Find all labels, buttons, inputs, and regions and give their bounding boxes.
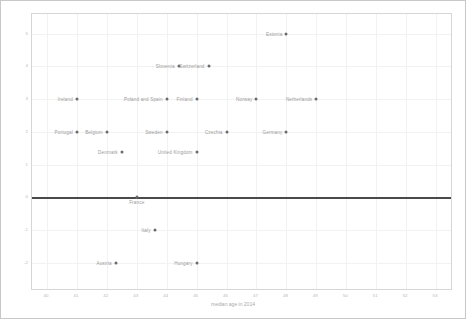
scatter-point[interactable]: [195, 261, 198, 264]
y-gridline: [32, 230, 451, 231]
x-gridline: [376, 14, 377, 289]
x-tick-label: 48: [283, 293, 288, 298]
scatter-point[interactable]: [153, 229, 156, 232]
y-tick-label: 2: [19, 128, 28, 133]
x-tick-label: 40: [44, 293, 49, 298]
scatter-point[interactable]: [195, 150, 198, 153]
x-gridline: [316, 14, 317, 289]
x-gridline: [346, 14, 347, 289]
scatter-point[interactable]: [225, 130, 228, 133]
x-gridline: [406, 14, 407, 289]
point-label: Germany: [262, 129, 282, 134]
y-gridline: [32, 34, 451, 35]
x-gridline: [256, 14, 257, 289]
x-gridline: [77, 14, 78, 289]
x-tick-label: 45: [193, 293, 198, 298]
point-label: Czechia: [205, 129, 223, 134]
y-tick-label: -2: [19, 259, 28, 264]
point-label: Portugal: [55, 129, 73, 134]
scatter-point[interactable]: [165, 98, 168, 101]
y-tick-label: 0: [19, 194, 28, 199]
point-label: Denmark: [98, 149, 118, 154]
scatter-point[interactable]: [105, 130, 108, 133]
y-tick-label: 4: [19, 63, 28, 68]
x-gridline: [286, 14, 287, 289]
y-gridline: [32, 263, 451, 264]
x-tick-label: 47: [253, 293, 258, 298]
y-gridline: [32, 66, 451, 67]
y-gridline: [32, 165, 451, 166]
point-label: United Kingdom: [158, 149, 193, 154]
y-axis-title-wrap: median age change in years compared to 2…: [13, 1, 25, 319]
x-tick-label: 50: [343, 293, 348, 298]
scatter-point[interactable]: [120, 150, 123, 153]
zero-reference-line: [32, 197, 451, 199]
point-label: Slovenia: [156, 64, 175, 69]
x-tick-label: 46: [223, 293, 228, 298]
x-tick-label: 53: [433, 293, 438, 298]
y-tick-label: 1: [19, 161, 28, 166]
x-gridline: [227, 14, 228, 289]
point-label: Sweden: [145, 129, 163, 134]
point-label: Finland: [176, 97, 192, 102]
x-tick-label: 51: [373, 293, 378, 298]
point-label: Netherlands: [286, 97, 312, 102]
x-axis-title: median age in 2014: [1, 301, 465, 307]
y-tick-label: 3: [19, 96, 28, 101]
scatter-point[interactable]: [207, 65, 210, 68]
x-tick-label: 44: [163, 293, 168, 298]
x-tick-label: 42: [103, 293, 108, 298]
point-label: Norway: [236, 97, 252, 102]
scatter-point[interactable]: [285, 130, 288, 133]
x-tick-label: 52: [403, 293, 408, 298]
plot-area: EstoniaSloveniaSwitzerlandIrelandPoland …: [31, 13, 452, 290]
scatter-point[interactable]: [285, 32, 288, 35]
scatter-point[interactable]: [195, 98, 198, 101]
scatter-point[interactable]: [114, 261, 117, 264]
chart-frame: median age change in years compared to 2…: [0, 0, 466, 319]
point-label: Estonia: [266, 31, 282, 36]
point-label: Austria: [96, 260, 111, 265]
scatter-point[interactable]: [75, 98, 78, 101]
scatter-point[interactable]: [315, 98, 318, 101]
x-tick-label: 43: [133, 293, 138, 298]
x-tick-label: 49: [313, 293, 318, 298]
x-gridline: [436, 14, 437, 289]
point-label: Hungary: [174, 260, 192, 265]
point-label: France: [129, 200, 144, 205]
scatter-point[interactable]: [255, 98, 258, 101]
x-tick-label: 41: [73, 293, 78, 298]
point-label: Switzerland: [179, 64, 204, 69]
x-gridline: [137, 14, 138, 289]
point-label: Poland and Spain: [124, 97, 163, 102]
x-gridline: [47, 14, 48, 289]
y-tick-label: -1: [19, 227, 28, 232]
scatter-point[interactable]: [135, 196, 138, 199]
scatter-point[interactable]: [75, 130, 78, 133]
scatter-point[interactable]: [165, 130, 168, 133]
point-label: Ireland: [58, 97, 73, 102]
point-label: Italy: [142, 228, 151, 233]
y-tick-label: 5: [19, 30, 28, 35]
point-label: Belgium: [85, 129, 103, 134]
